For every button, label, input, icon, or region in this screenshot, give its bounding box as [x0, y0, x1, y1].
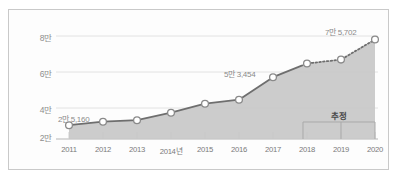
- y-tick-label-40000: 4만: [26, 103, 52, 115]
- y-tick-label-20000: 2만: [26, 131, 52, 143]
- series-area-fill: [69, 40, 375, 140]
- data-point-2018: [304, 60, 311, 67]
- y-tick-label-60000: 6만: [26, 67, 52, 79]
- data-point-2020: [372, 36, 379, 43]
- data-point-2019: [338, 56, 345, 63]
- y-tick-label-80000: 8만: [26, 31, 52, 43]
- data-label-2017: 5만 3,454: [224, 68, 255, 79]
- data-point-2016: [236, 96, 243, 103]
- data-point-2014년: [168, 109, 175, 116]
- data-label-2020: 7만 5,702: [325, 26, 356, 37]
- data-point-2012: [100, 118, 107, 125]
- data-point-2017: [270, 74, 277, 81]
- data-point-2013: [134, 117, 141, 124]
- data-label-2011: 2만 5,160: [58, 113, 89, 124]
- x-tick-label-2020: 2020: [355, 145, 395, 154]
- forecast-label: 추정: [319, 109, 359, 121]
- data-point-2015: [202, 100, 209, 107]
